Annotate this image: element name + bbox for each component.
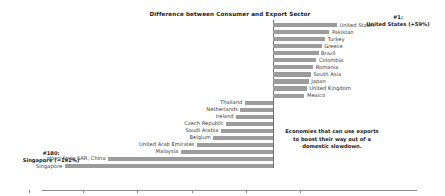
bar-row: Pakistan	[273, 30, 329, 34]
bar-category-label: Japan	[311, 79, 325, 84]
bar-category-label: Czech Republic	[184, 121, 224, 126]
bar	[273, 94, 304, 98]
bar	[108, 157, 273, 161]
bar-category-label: Pakistan	[332, 30, 354, 35]
bar	[273, 37, 325, 41]
bar-row: United Arab Emirates	[197, 143, 273, 147]
bar-category-label: Netherlands	[206, 107, 238, 112]
bar-row: Netherlands	[240, 108, 273, 112]
bar	[273, 44, 322, 48]
bar-row: Brazil	[273, 51, 319, 55]
bar-row: United States	[273, 23, 337, 27]
bar-category-label: Belgium	[190, 135, 211, 140]
bar-row: South Asia	[273, 72, 311, 76]
bar-category-label: Hong Kong SAR, China	[47, 156, 106, 161]
bar-category-label: Turkey	[328, 37, 345, 42]
bar-row: United Kingdom	[273, 86, 307, 90]
bar	[273, 51, 319, 55]
bar	[273, 72, 311, 76]
bar-row: Hong Kong SAR, China	[108, 157, 273, 161]
bar	[213, 136, 273, 140]
x-axis-tick	[192, 190, 193, 193]
bar-row: Mexico	[273, 94, 304, 98]
chart-canvas: Difference between Consumer and Export S…	[0, 0, 445, 196]
x-axis-tick	[246, 190, 247, 193]
bar-row: Ireland	[236, 115, 273, 119]
bar-category-label: United States	[340, 23, 375, 28]
bar-category-label: Brazil	[321, 51, 335, 56]
plot-area: United StatesPakistanTurkeyGreeceBrazilC…	[0, 20, 445, 170]
bar	[181, 150, 273, 154]
bar-row: Czech Republic	[226, 122, 273, 126]
bar-category-label: Ireland	[216, 114, 234, 119]
x-axis-tick	[29, 190, 30, 193]
bar	[273, 86, 307, 90]
bar-category-label: Malaysia	[156, 149, 179, 154]
bar-category-label: United Kingdom	[309, 86, 351, 91]
bar-row: Saudi Arabia	[221, 129, 273, 133]
x-axis-tick	[300, 190, 301, 193]
bar	[240, 108, 273, 112]
bar-row: Belgium	[213, 136, 273, 140]
bar-row: Singapore	[65, 164, 273, 168]
bar-category-label: South Asia	[313, 72, 341, 77]
bar	[273, 65, 313, 69]
bar	[221, 129, 273, 133]
bar-category-label: Mexico	[307, 93, 325, 98]
bar-category-label: Saudi Arabia	[185, 128, 218, 133]
chart-title: Difference between Consumer and Export S…	[140, 12, 320, 18]
bar-row: Japan	[273, 79, 309, 83]
bar	[226, 122, 273, 126]
bar-row: Malaysia	[181, 150, 273, 154]
bar-category-label: Colombia	[319, 58, 343, 63]
bar-row: Romania	[273, 65, 313, 69]
x-axis-tick	[83, 190, 84, 193]
bar-row: Greece	[273, 44, 322, 48]
bar	[65, 164, 273, 168]
bar-category-label: United Arab Emirates	[139, 142, 195, 147]
bar-row: Turkey	[273, 37, 325, 41]
bar-row: Thailand	[245, 101, 273, 105]
bar	[273, 79, 309, 83]
bar-category-label: Romania	[316, 65, 339, 70]
x-axis-line	[42, 190, 417, 191]
bar	[236, 115, 273, 119]
bar-row: Colombia	[273, 58, 316, 62]
bar	[273, 23, 337, 27]
x-axis-tick	[137, 190, 138, 193]
bar	[273, 58, 316, 62]
bar-category-label: Thailand	[220, 100, 242, 105]
bar	[197, 143, 273, 147]
bar-category-label: Greece	[324, 44, 342, 49]
bar	[245, 101, 273, 105]
bar-category-label: Singapore	[36, 164, 62, 169]
bar	[273, 30, 329, 34]
